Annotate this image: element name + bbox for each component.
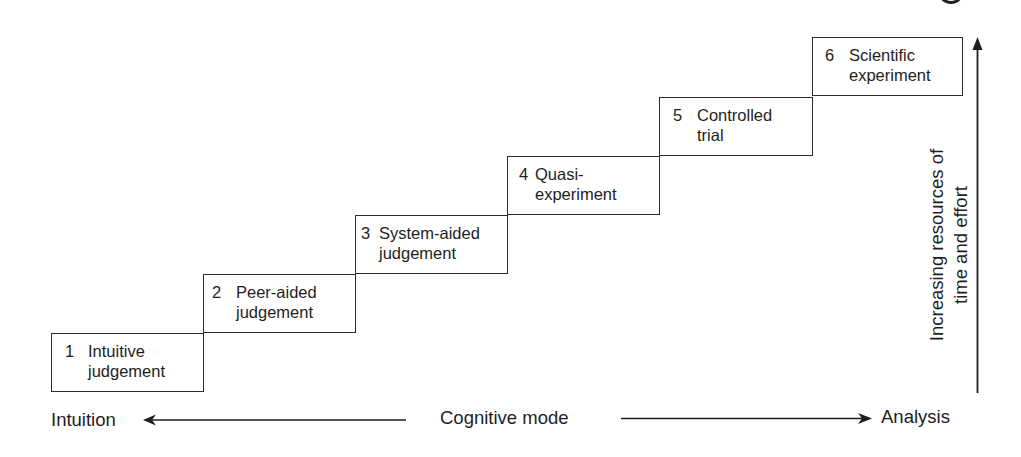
analysis-label: Analysis [881,406,950,428]
up-arrowhead-icon [973,37,983,50]
axis-arrows [0,0,1021,457]
intuition-label: Intuition [51,409,116,431]
resources-axis-label: Increasing resources of time and effort [925,110,977,380]
cognitive-mode-label: Cognitive mode [440,407,569,429]
